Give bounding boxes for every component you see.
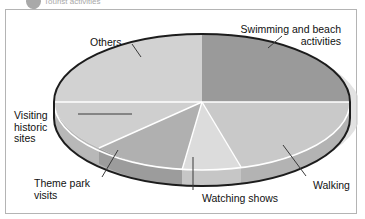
label-others: Others xyxy=(90,37,122,49)
chart-panel: Swimming and beach activities Others Vis… xyxy=(5,9,357,214)
label-swimming-and-beach: Swimming and beach activities xyxy=(221,24,341,47)
pin-marker-icon xyxy=(26,0,41,9)
label-visiting-historic-sites: Visiting historic sites xyxy=(14,110,48,145)
label-walking: Walking xyxy=(313,180,350,192)
label-theme-park-visits: Theme park visits xyxy=(34,178,90,201)
pie-slice-others[interactable] xyxy=(54,34,202,102)
label-watching-shows: Watching shows xyxy=(202,193,278,205)
cutoff-caption-text: Tourist activities xyxy=(44,0,100,6)
